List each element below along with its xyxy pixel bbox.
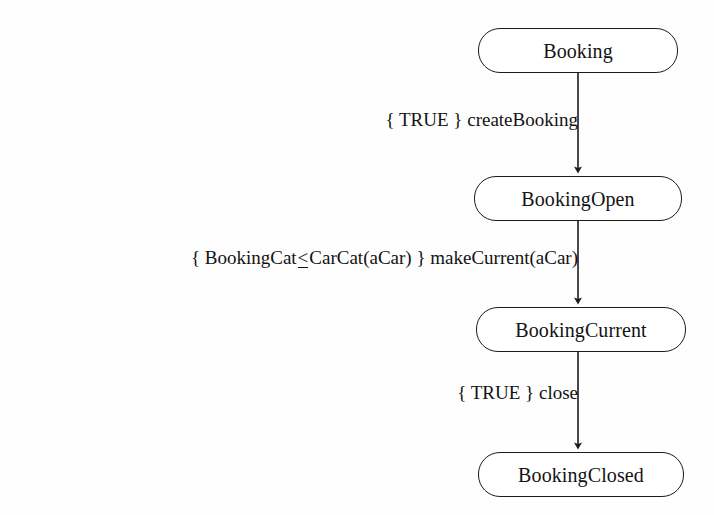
transition-event-create-booking: createBooking	[467, 109, 578, 130]
state-label-bookingopen: BookingOpen	[521, 189, 634, 209]
transition-event-make-current: CarCat(aCar) } makeCurrent(aCar)	[309, 247, 578, 268]
less-than-or-equal-icon: <	[297, 248, 310, 269]
transition-label-create-booking: { TRUE } createBooking	[385, 110, 578, 131]
state-node-bookingclosed[interactable]: BookingClosed	[478, 452, 684, 497]
state-label-booking: Booking	[543, 41, 613, 61]
transition-text-create-booking: { TRUE }	[385, 109, 467, 130]
state-node-booking[interactable]: Booking	[478, 28, 678, 73]
state-label-bookingcurrent: BookingCurrent	[515, 320, 646, 340]
state-label-bookingclosed: BookingClosed	[518, 465, 644, 485]
state-node-bookingcurrent[interactable]: BookingCurrent	[476, 307, 686, 352]
state-node-bookingopen[interactable]: BookingOpen	[474, 176, 682, 221]
diagram-canvas: Booking BookingOpen BookingCurrent Booki…	[0, 0, 714, 515]
transition-event-close: close	[539, 382, 578, 403]
transition-guard-make-current: { BookingCat	[191, 247, 297, 268]
transition-label-make-current: { BookingCat<CarCat(aCar) } makeCurrent(…	[191, 248, 578, 269]
transition-label-close: { TRUE } close	[457, 383, 578, 404]
transition-text-close: { TRUE }	[457, 382, 539, 403]
